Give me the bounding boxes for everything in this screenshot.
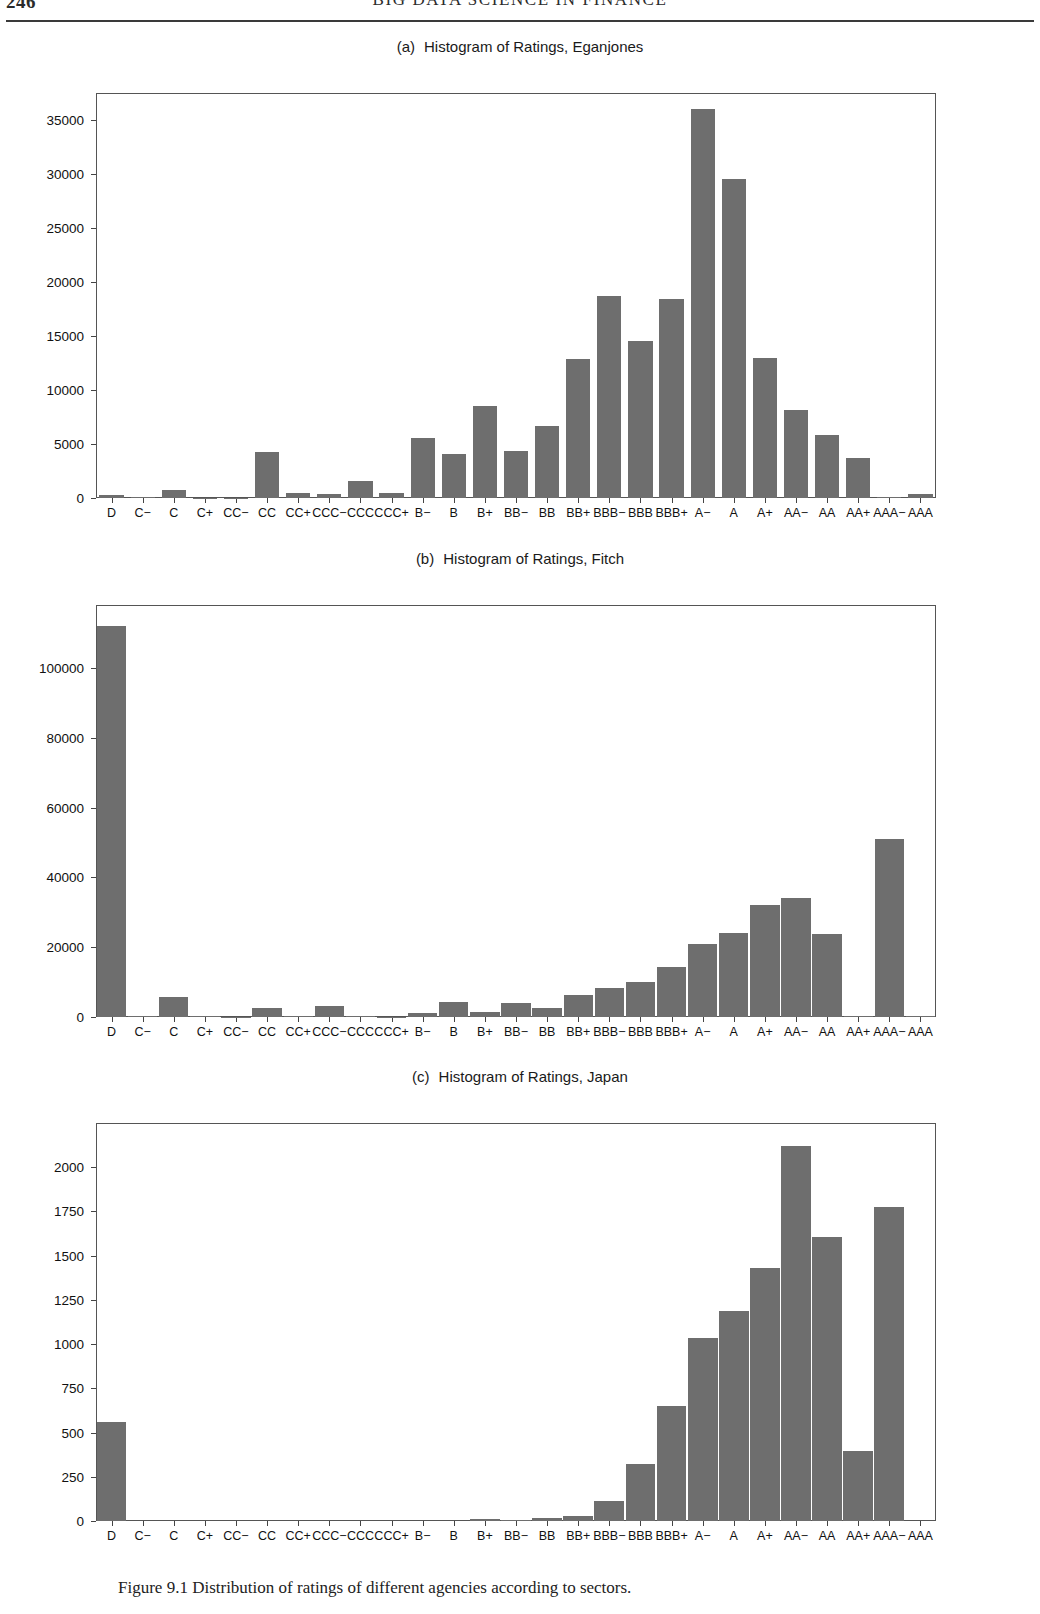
x-axis-tick-label: AAA	[908, 1529, 933, 1543]
y-axis-tick-label: 35000	[0, 113, 84, 128]
x-axis-tick-label: A−	[695, 506, 711, 520]
x-axis-tick-mark	[889, 498, 890, 503]
histogram-bar	[844, 1016, 873, 1017]
x-axis-tick-label: AA+	[846, 506, 870, 520]
histogram-bar	[346, 1016, 375, 1017]
x-axis-tick-label: C−	[134, 506, 150, 520]
panel-b-tag: (b)	[416, 550, 434, 567]
x-axis-tick-label: BB	[539, 1025, 556, 1039]
figure-caption-text: Distribution of ratings of different age…	[192, 1578, 631, 1597]
y-axis-tick-mark	[91, 1477, 96, 1478]
x-axis-tick-mark	[205, 1017, 206, 1022]
x-axis-tick-mark	[112, 1521, 113, 1526]
histogram-bar	[812, 1237, 842, 1521]
histogram-bar	[439, 1002, 468, 1017]
x-axis-tick-mark	[703, 1017, 704, 1022]
histogram-bar	[843, 1451, 873, 1521]
x-axis-tick-label: C+	[197, 1025, 213, 1039]
x-axis-tick-label: B+	[477, 1529, 493, 1543]
x-axis-tick-mark	[796, 1017, 797, 1022]
y-axis-tick-mark	[91, 1521, 96, 1522]
histogram-bar	[688, 1338, 718, 1521]
x-axis-tick-label: CC	[258, 506, 276, 520]
x-axis-tick-mark	[640, 1521, 641, 1526]
x-axis-tick-mark	[205, 1521, 206, 1526]
y-axis-tick-mark	[91, 336, 96, 337]
x-axis-tick-mark	[143, 1017, 144, 1022]
x-axis-tick-label: AA−	[784, 1025, 808, 1039]
histogram-bar	[566, 359, 590, 498]
y-axis-tick-label: 0	[0, 491, 84, 506]
x-axis-tick-label: CC	[258, 1529, 276, 1543]
y-axis-tick-label: 0	[0, 1010, 84, 1025]
x-axis-tick-mark	[920, 498, 921, 503]
histogram-bar	[874, 1207, 904, 1521]
x-axis-tick-mark	[703, 1521, 704, 1526]
y-axis-tick-mark	[91, 390, 96, 391]
x-axis-tick-mark	[827, 498, 828, 503]
figure-panel-b: (b)Histogram of Ratings, Fitch 020000400…	[0, 550, 1040, 1068]
x-axis-tick-mark	[112, 498, 113, 503]
panel-b-title: (b)Histogram of Ratings, Fitch	[0, 550, 1040, 567]
x-axis-tick-mark	[547, 498, 548, 503]
x-axis-tick-label: AA+	[846, 1025, 870, 1039]
x-axis-tick-mark	[298, 1017, 299, 1022]
x-axis-tick-mark	[640, 498, 641, 503]
x-axis-tick-mark	[765, 1521, 766, 1526]
histogram-bar	[99, 495, 123, 498]
y-axis-tick-mark	[91, 1211, 96, 1212]
x-axis-tick-label: A	[730, 506, 738, 520]
panel-c-title-text: Histogram of Ratings, Japan	[439, 1068, 628, 1085]
x-axis-tick-label: D	[107, 506, 116, 520]
y-axis-tick-mark	[91, 282, 96, 283]
x-axis-tick-label: BB+	[566, 1025, 590, 1039]
histogram-bar	[564, 995, 593, 1017]
x-axis-tick-label: B	[450, 1025, 458, 1039]
x-axis-tick-label: A	[730, 1529, 738, 1543]
histogram-bar	[317, 494, 341, 498]
x-axis-tick-label: AA+	[846, 1529, 870, 1543]
histogram-bar	[784, 410, 808, 498]
x-axis-tick-mark	[703, 498, 704, 503]
x-axis-tick-label: A−	[695, 1025, 711, 1039]
y-axis-tick-mark	[91, 120, 96, 121]
x-axis-tick-label: A+	[757, 1025, 773, 1039]
histogram-bar	[377, 1017, 406, 1018]
x-axis-tick-label: CC−	[223, 1025, 248, 1039]
histogram-bar	[162, 490, 186, 498]
histogram-bar	[657, 967, 686, 1017]
y-axis-tick-label: 750	[0, 1381, 84, 1396]
x-axis-tick-mark	[329, 1521, 330, 1526]
y-axis-tick-mark	[91, 1388, 96, 1389]
x-axis-tick-label: AA	[819, 506, 836, 520]
x-axis-tick-label: AA	[819, 1025, 836, 1039]
x-axis-tick-mark	[267, 1521, 268, 1526]
x-axis-tick-mark	[485, 498, 486, 503]
x-axis-tick-label: D	[107, 1025, 116, 1039]
x-axis-tick-label: BB+	[566, 1529, 590, 1543]
x-axis-tick-mark	[672, 498, 673, 503]
x-axis-tick-mark	[360, 498, 361, 503]
x-axis-tick-label: B+	[477, 1025, 493, 1039]
x-axis-tick-mark	[392, 1017, 393, 1022]
x-axis-tick-label: B−	[415, 1529, 431, 1543]
histogram-bar	[473, 406, 497, 498]
y-axis-tick-label: 0	[0, 1514, 84, 1529]
y-axis-tick-label: 1750	[0, 1204, 84, 1219]
x-axis-tick-mark	[609, 498, 610, 503]
histogram-bar	[532, 1518, 562, 1521]
x-axis-tick-label: C	[169, 1025, 178, 1039]
x-axis-tick-mark	[578, 498, 579, 503]
x-axis-tick-mark	[423, 1521, 424, 1526]
x-axis-tick-label: A	[730, 1025, 738, 1039]
histogram-bar	[532, 1008, 561, 1017]
x-axis-tick-label: BB	[539, 1529, 556, 1543]
y-axis-tick-mark	[91, 174, 96, 175]
panel-a-title: (a)Histogram of Ratings, Eganjones	[0, 38, 1040, 55]
x-axis-tick-mark	[485, 1017, 486, 1022]
histogram-bar	[128, 1016, 157, 1017]
y-axis-tick-label: 20000	[0, 275, 84, 290]
x-axis-tick-mark	[267, 1017, 268, 1022]
histogram-bar	[252, 1008, 281, 1017]
x-axis-tick-label: C	[169, 506, 178, 520]
